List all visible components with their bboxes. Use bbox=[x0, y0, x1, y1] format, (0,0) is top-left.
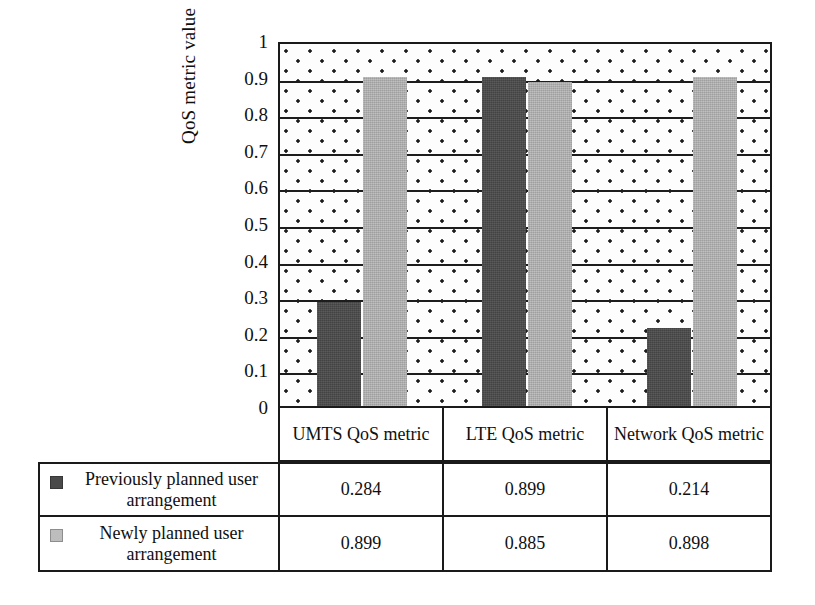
y-axis-tick-0_4: 0.4 bbox=[244, 252, 268, 272]
y-axis-tick-0_9: 0.9 bbox=[244, 69, 268, 89]
data-value-r1-c2: 0.899 bbox=[444, 464, 608, 515]
data-value-r2-c2: 0.885 bbox=[444, 517, 608, 570]
legend-swatch-icon bbox=[50, 529, 63, 542]
bar-previous-2 bbox=[482, 77, 526, 406]
category-header-row: UMTS QoS metricLTE QoS metricNetwork QoS… bbox=[278, 408, 772, 462]
bars-layer bbox=[280, 44, 770, 406]
bar-new-3 bbox=[693, 77, 737, 406]
bar-new-2 bbox=[528, 82, 572, 406]
table-row: Previously planned user arrangement0.284… bbox=[40, 464, 770, 517]
y-axis-tick-0_3: 0.3 bbox=[244, 288, 268, 308]
data-value-r1-c1: 0.284 bbox=[280, 464, 444, 515]
y-axis-tick-0: 0 bbox=[259, 398, 269, 418]
y-axis-tick-0_1: 0.1 bbox=[244, 361, 268, 381]
qos-bar-chart-figure: QoS metric value 10.90.80.70.60.50.40.30… bbox=[0, 0, 815, 605]
legend-label: Previously planned user arrangement bbox=[71, 469, 272, 510]
y-axis-tick-0_5: 0.5 bbox=[244, 215, 268, 235]
data-value-r2-c3: 0.898 bbox=[608, 517, 770, 570]
bar-previous-3 bbox=[647, 328, 691, 406]
legend-cell-1: Previously planned user arrangement bbox=[40, 464, 280, 515]
category-label-2: LTE QoS metric bbox=[444, 408, 608, 460]
y-axis-title: QoS metric value bbox=[178, 0, 204, 144]
plot-area bbox=[278, 42, 772, 408]
data-value-r1-c3: 0.214 bbox=[608, 464, 770, 515]
legend-swatch-icon bbox=[50, 476, 63, 489]
y-axis-tick-0_7: 0.7 bbox=[244, 142, 268, 162]
bar-previous-1 bbox=[317, 302, 361, 406]
y-axis-tick-labels: 10.90.80.70.60.50.40.30.20.10 bbox=[228, 42, 274, 408]
table-row: Newly planned user arrangement0.8990.885… bbox=[40, 517, 770, 570]
legend-cell-2: Newly planned user arrangement bbox=[40, 517, 280, 570]
data-value-r2-c1: 0.899 bbox=[280, 517, 444, 570]
bar-new-1 bbox=[363, 77, 407, 406]
y-axis-tick-1: 1 bbox=[259, 32, 269, 52]
data-legend-table: Previously planned user arrangement0.284… bbox=[38, 462, 772, 572]
legend-label: Newly planned user arrangement bbox=[71, 523, 272, 564]
category-label-3: Network QoS metric bbox=[608, 408, 770, 460]
category-label-1: UMTS QoS metric bbox=[280, 408, 444, 460]
y-axis-tick-0_6: 0.6 bbox=[244, 178, 268, 198]
y-axis-tick-0_2: 0.2 bbox=[244, 325, 268, 345]
y-axis-tick-0_8: 0.8 bbox=[244, 105, 268, 125]
